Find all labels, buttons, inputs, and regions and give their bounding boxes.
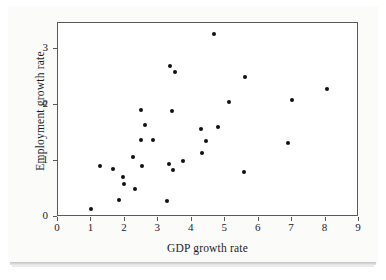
data-point <box>243 75 247 79</box>
x-tick-label: 2 <box>114 222 134 233</box>
data-point <box>227 100 231 104</box>
data-point <box>204 139 208 143</box>
data-point <box>133 187 137 191</box>
data-point <box>131 155 135 159</box>
y-tick-label: 0 <box>6 210 48 221</box>
data-point <box>325 87 329 91</box>
data-point <box>181 159 185 163</box>
data-point <box>139 108 143 112</box>
data-point <box>139 138 143 142</box>
data-point <box>200 151 204 155</box>
data-point <box>167 162 171 166</box>
x-tick-label: 6 <box>248 222 268 233</box>
data-point <box>286 141 290 145</box>
x-tick-label: 3 <box>147 222 167 233</box>
x-tick-label: 7 <box>281 222 301 233</box>
y-tick-mark <box>53 48 57 49</box>
data-point <box>111 167 115 171</box>
x-axis-label: GDP growth rate <box>57 242 358 254</box>
chart-page: 0123 0123456789 GDP growth rate Employme… <box>0 0 386 280</box>
data-point <box>89 207 93 211</box>
x-tick-label: 0 <box>47 222 67 233</box>
y-tick-mark <box>53 160 57 161</box>
x-tick-label: 8 <box>315 222 335 233</box>
data-point <box>290 98 294 102</box>
data-point <box>216 125 220 129</box>
x-tick-label: 9 <box>348 222 368 233</box>
x-tick-label: 5 <box>214 222 234 233</box>
data-point <box>199 127 203 131</box>
data-point <box>121 175 125 179</box>
data-point <box>143 123 147 127</box>
data-point <box>173 70 177 74</box>
x-tick-label: 4 <box>181 222 201 233</box>
data-point <box>165 199 169 203</box>
data-point <box>122 182 126 186</box>
data-point <box>170 109 174 113</box>
data-point <box>140 164 144 168</box>
data-point <box>212 32 216 36</box>
data-point <box>168 64 172 68</box>
x-tick-label: 1 <box>80 222 100 233</box>
data-point <box>171 168 175 172</box>
page-bottom-edge-soft <box>12 265 374 267</box>
y-axis-label: Employment growth rate <box>34 14 46 208</box>
data-point <box>117 198 121 202</box>
data-point <box>242 170 246 174</box>
scatter-plot-area <box>57 22 358 216</box>
data-point <box>151 138 155 142</box>
y-tick-mark <box>53 104 57 105</box>
data-point <box>98 164 102 168</box>
